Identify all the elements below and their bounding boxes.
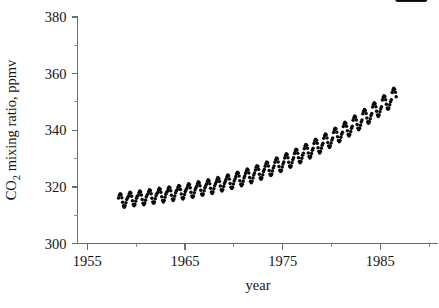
data-point bbox=[383, 95, 387, 99]
data-point bbox=[119, 193, 123, 197]
data-points-layer bbox=[117, 0, 427, 209]
data-point bbox=[257, 168, 261, 172]
y-axis-title-group: CO2 mixing ratio, ppmv bbox=[3, 59, 22, 200]
data-point bbox=[320, 147, 324, 151]
data-point bbox=[355, 118, 359, 122]
data-point bbox=[144, 198, 148, 202]
data-point bbox=[241, 183, 245, 187]
data-point bbox=[266, 161, 270, 165]
data-point bbox=[365, 116, 369, 120]
data-point bbox=[354, 115, 358, 119]
data-point bbox=[338, 139, 342, 143]
data-point bbox=[292, 156, 296, 160]
data-point bbox=[390, 98, 394, 102]
data-point bbox=[170, 194, 174, 198]
data-point bbox=[140, 198, 144, 202]
data-point bbox=[248, 176, 252, 180]
data-point bbox=[388, 103, 392, 107]
data-point bbox=[221, 188, 225, 192]
data-point bbox=[150, 196, 154, 200]
data-point bbox=[207, 179, 211, 183]
data-point bbox=[256, 165, 260, 169]
data-point bbox=[188, 186, 192, 190]
data-point bbox=[199, 189, 203, 193]
data-point bbox=[250, 179, 254, 183]
data-point bbox=[316, 142, 320, 146]
x-tick-label: 1985 bbox=[366, 253, 395, 269]
data-point bbox=[228, 182, 232, 186]
data-point bbox=[201, 192, 205, 196]
data-point bbox=[319, 150, 323, 154]
data-point bbox=[368, 120, 372, 124]
data-point bbox=[280, 168, 284, 172]
data-point bbox=[222, 185, 226, 189]
data-point bbox=[355, 123, 359, 127]
data-point bbox=[124, 201, 128, 205]
data-point bbox=[247, 171, 251, 175]
data-point bbox=[179, 188, 183, 192]
data-point bbox=[140, 193, 144, 197]
y-tick-label: 360 bbox=[45, 66, 67, 82]
data-point bbox=[375, 110, 379, 114]
data-point bbox=[208, 182, 212, 186]
data-point bbox=[212, 187, 216, 191]
data-point bbox=[271, 169, 275, 173]
data-point bbox=[192, 194, 196, 198]
data-point bbox=[270, 172, 274, 176]
data-point bbox=[189, 191, 193, 195]
data-point bbox=[276, 157, 280, 161]
data-point bbox=[324, 133, 328, 137]
data-point bbox=[360, 118, 364, 122]
data-point bbox=[335, 130, 339, 134]
data-point bbox=[217, 177, 221, 181]
data-point bbox=[290, 161, 294, 165]
data-point bbox=[306, 147, 310, 151]
data-point bbox=[331, 136, 335, 140]
data-point bbox=[380, 105, 384, 109]
data-point bbox=[299, 160, 303, 164]
data-point bbox=[394, 91, 398, 95]
chart-canvas: 300320340360380 1955196519751985 year CO… bbox=[0, 0, 439, 308]
data-point bbox=[393, 87, 397, 91]
y-tick-label: 340 bbox=[45, 122, 67, 138]
data-point bbox=[364, 109, 368, 113]
data-point bbox=[183, 193, 187, 197]
axis-lines bbox=[77, 17, 438, 244]
y-tick-label: 380 bbox=[45, 9, 67, 25]
data-point bbox=[345, 125, 349, 129]
y-axis-title-main: CO bbox=[3, 180, 19, 200]
data-point bbox=[130, 194, 134, 198]
data-point bbox=[139, 190, 143, 194]
data-point bbox=[350, 125, 354, 129]
data-point bbox=[344, 121, 348, 125]
data-point bbox=[378, 110, 382, 114]
data-point bbox=[211, 190, 215, 194]
data-point bbox=[253, 171, 257, 175]
data-point bbox=[261, 173, 265, 177]
data-point bbox=[328, 144, 332, 148]
data-point bbox=[241, 179, 245, 183]
data-point bbox=[159, 191, 163, 195]
y-axis-title-rest: mixing ratio, ppmv bbox=[3, 59, 19, 175]
data-point bbox=[329, 141, 333, 145]
data-point bbox=[309, 155, 313, 159]
data-point bbox=[316, 146, 320, 150]
data-point bbox=[123, 204, 127, 208]
data-point bbox=[348, 133, 352, 137]
data-point bbox=[197, 181, 201, 185]
data-point bbox=[300, 157, 304, 161]
data-point bbox=[251, 176, 255, 180]
data-point bbox=[276, 160, 280, 164]
data-point bbox=[374, 105, 378, 109]
x-axis-tick-labels: 1955196519751985 bbox=[73, 253, 395, 269]
data-point bbox=[349, 130, 353, 134]
data-point bbox=[133, 203, 137, 207]
y-tick-label: 300 bbox=[45, 236, 67, 252]
data-point bbox=[368, 117, 372, 121]
data-point bbox=[289, 164, 293, 168]
data-point bbox=[227, 174, 231, 178]
data-point bbox=[163, 196, 167, 200]
y-axis-tick-labels: 300320340360380 bbox=[45, 9, 67, 252]
data-point bbox=[231, 185, 235, 189]
data-point bbox=[129, 191, 133, 195]
